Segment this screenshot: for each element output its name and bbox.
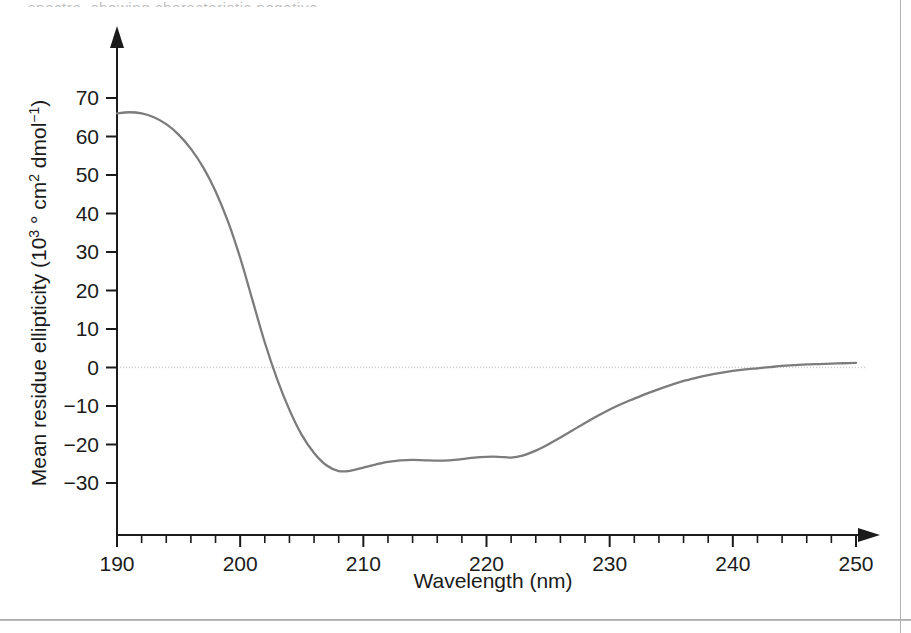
svg-text:Mean residue ellipticity (103: Mean residue ellipticity (103 ° cm2 dmol… [26,100,50,487]
x-tick-label: 250 [838,552,873,575]
page-bottom-rule [0,619,911,621]
y-axis-ticks [106,98,117,483]
y-tick-label: 70 [76,86,99,109]
y-axis-title: Mean residue ellipticity (103 ° cm2 dmol… [26,100,50,487]
y-tick-label: 30 [76,240,99,263]
x-axis-arrow-icon [858,528,880,542]
y-axis-title-main: Mean residue ellipticity (10 [27,238,50,487]
x-axis-major-ticks [117,535,856,547]
y-tick-label: −10 [63,394,99,417]
cd-spectrum-curve [117,112,856,471]
y-tick-label: 60 [76,125,99,148]
y-axis-arrow-icon [110,26,124,48]
x-tick-label: 230 [592,552,627,575]
y-axis-title-exponent-2: 2 [26,174,42,182]
y-axis-title-mid: ° cm [27,182,50,230]
y-tick-label: 10 [76,317,99,340]
y-tick-label: 0 [87,356,99,379]
x-tick-label: 200 [223,552,258,575]
y-tick-label: 50 [76,163,99,186]
y-tick-label: 40 [76,202,99,225]
y-axis-title-exponent-3: 3 [26,230,42,238]
y-axis-title-exponent-minus-1: −1 [26,106,42,122]
y-axis-title-close-paren: ) [27,100,50,107]
x-tick-label: 210 [346,552,381,575]
cd-spectrum-figure: 706050403020100−10−20−30 190200210220230… [0,0,911,615]
x-tick-label: 190 [99,552,134,575]
y-tick-label: 20 [76,279,99,302]
y-axis-title-tail: dmol [27,123,50,174]
x-tick-label: 240 [715,552,750,575]
page-right-rule [900,0,901,633]
y-axis-tick-labels: 706050403020100−10−20−30 [63,86,99,494]
x-axis-title: Wavelength (nm) [413,569,572,592]
y-tick-label: −20 [63,433,99,456]
chart-canvas: 706050403020100−10−20−30 190200210220230… [0,0,911,615]
figure-page: spectra, showing characteristic negative… [0,0,911,633]
y-tick-label: −30 [63,471,99,494]
